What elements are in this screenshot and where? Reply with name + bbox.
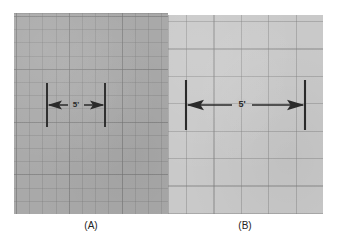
panel-b-graph-paper: 5' xyxy=(168,15,323,214)
dimension-drawing-a xyxy=(14,13,168,214)
dimension-label-a: 5' xyxy=(73,100,79,109)
figure-root: 5' 5' (A) (B) xyxy=(0,0,337,241)
caption-panel-a: (A) xyxy=(84,220,97,231)
dimension-label-b: 5' xyxy=(238,99,245,109)
dimension-drawing-b xyxy=(168,15,323,214)
panel-a-graph-paper: 5' xyxy=(14,13,168,214)
caption-panel-b: (B) xyxy=(238,220,251,231)
